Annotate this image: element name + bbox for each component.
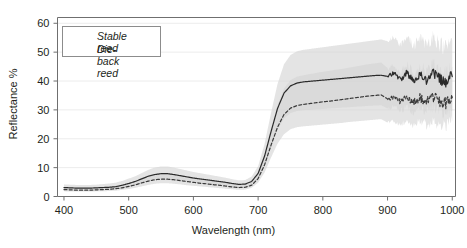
x-tick-label: 900	[378, 204, 396, 216]
chart-legend: Stable reed Die-back reed	[62, 26, 161, 57]
y-tick-label: 50	[37, 46, 49, 58]
x-tick-label: 400	[55, 204, 73, 216]
legend-label-die-back-reed: Die-back reed	[97, 43, 119, 79]
x-tick-label: 1000	[440, 204, 464, 216]
x-tick-label: 600	[184, 204, 202, 216]
y-tick-label: 60	[37, 17, 49, 29]
y-axis-label: Reflectance %	[7, 59, 19, 149]
y-tick-label: 30	[37, 104, 49, 116]
spectral-reflectance-figure: 01020304050604005006007008009001000 Refl…	[0, 0, 467, 248]
y-tick-label: 10	[37, 162, 49, 174]
x-axis-label: Wavelength (nm)	[0, 224, 467, 236]
y-tick-label: 20	[37, 133, 49, 145]
y-tick-label: 0	[43, 191, 49, 203]
x-tick-label: 700	[249, 204, 267, 216]
x-tick-label: 500	[120, 204, 138, 216]
y-tick-label: 40	[37, 75, 49, 87]
x-tick-label: 800	[314, 204, 332, 216]
